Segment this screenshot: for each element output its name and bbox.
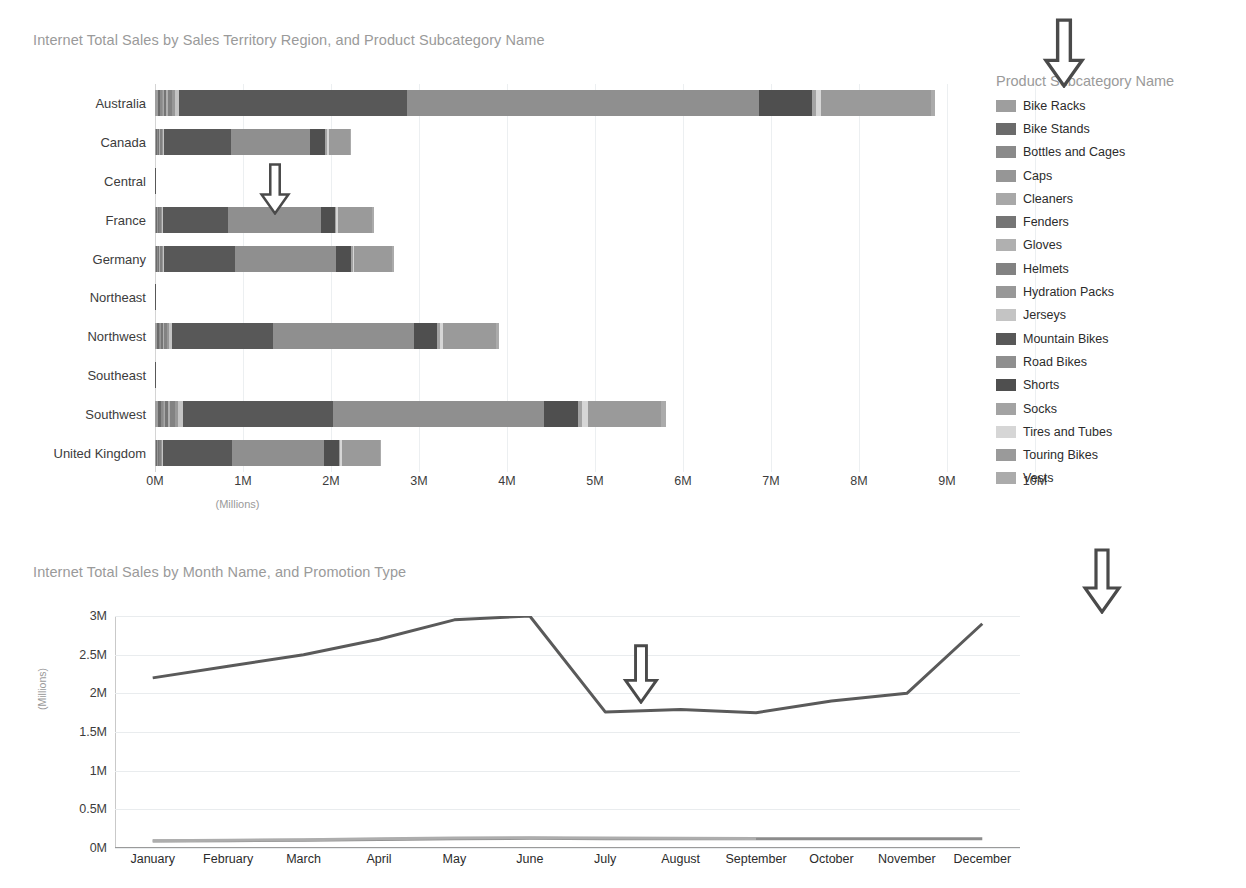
bar-segment[interactable]	[163, 207, 228, 233]
bar-segment[interactable]	[235, 246, 336, 272]
line-x-tick-label: January	[130, 852, 174, 866]
bar-segment[interactable]	[821, 90, 931, 116]
bar-segment[interactable]	[179, 90, 408, 116]
line-x-tick-label: September	[725, 852, 786, 866]
bar-row[interactable]: Australia	[155, 90, 1035, 116]
bar-row[interactable]: Northeast	[155, 284, 1035, 310]
bar-segment[interactable]	[321, 207, 335, 233]
legend-item[interactable]: Gloves	[996, 234, 1246, 257]
bar-segment[interactable]	[354, 246, 392, 272]
bar-segment[interactable]	[661, 401, 666, 427]
line-x-tick-label: December	[953, 852, 1011, 866]
legend-item-label: Bottles and Cages	[1023, 145, 1125, 159]
bar-segment[interactable]	[231, 129, 310, 155]
legend-item[interactable]: Socks	[996, 397, 1246, 420]
bar-chart-legend: Product Subcategory Name Bike RacksBike …	[996, 73, 1246, 490]
bar-category-label: Germany	[93, 251, 146, 266]
legend-item[interactable]: Bike Stands	[996, 117, 1246, 140]
legend-item[interactable]: Bike Racks	[996, 94, 1246, 117]
bar-row[interactable]: United Kingdom	[155, 440, 1035, 466]
bar-segment[interactable]	[183, 401, 333, 427]
legend-item[interactable]: Mountain Bikes	[996, 327, 1246, 350]
bar-segment[interactable]	[414, 323, 437, 349]
bar-segment[interactable]	[544, 401, 578, 427]
bar-row[interactable]: Canada	[155, 129, 1035, 155]
bar-category-label: Northeast	[90, 290, 146, 305]
bar-segment[interactable]	[342, 440, 380, 466]
bar-segment[interactable]	[324, 440, 339, 466]
bar-segment[interactable]	[155, 284, 156, 310]
bar-segment[interactable]	[164, 129, 231, 155]
bar-row[interactable]: Southeast	[155, 362, 1035, 388]
legend-item[interactable]: Caps	[996, 164, 1246, 187]
line-x-tick-label: March	[286, 852, 321, 866]
bar-segment[interactable]	[443, 323, 496, 349]
bar-segment[interactable]	[163, 440, 232, 466]
line-series-path[interactable]	[153, 616, 983, 713]
legend-item[interactable]: Vests	[996, 467, 1246, 490]
bar-segment[interactable]	[273, 323, 414, 349]
bar-segment[interactable]	[392, 246, 394, 272]
legend-item-label: Gloves	[1023, 238, 1062, 252]
bar-segment[interactable]	[380, 440, 381, 466]
bar-category-label: Australia	[95, 96, 146, 111]
bar-segment[interactable]	[407, 90, 759, 116]
legend-swatch-icon	[996, 472, 1016, 484]
legend-swatch-icon	[996, 309, 1016, 321]
bar-segment[interactable]	[372, 207, 373, 233]
bar-x-tick-label: 3M	[410, 474, 427, 488]
line-chart-plot-area: 0M0.5M1M1.5M2M2.5M3MJanuaryFebruaryMarch…	[115, 616, 1020, 848]
line-y-tick-label: 3M	[90, 609, 107, 623]
line-y-tick-label: 0.5M	[79, 802, 107, 816]
legend-item[interactable]: Tires and Tubes	[996, 420, 1246, 443]
legend-item-label: Cleaners	[1023, 192, 1073, 206]
legend-item-label: Hydration Packs	[1023, 285, 1114, 299]
bar-segment[interactable]	[931, 90, 935, 116]
legend-item[interactable]: Cleaners	[996, 187, 1246, 210]
legend-swatch-icon	[996, 193, 1016, 205]
bar-row[interactable]: Northwest	[155, 323, 1035, 349]
bar-category-label: Central	[104, 174, 146, 189]
legend-item[interactable]: Helmets	[996, 257, 1246, 280]
line-x-tick-label: August	[661, 852, 700, 866]
bar-segment[interactable]	[759, 90, 812, 116]
bar-segment[interactable]	[172, 323, 273, 349]
legend-item[interactable]: Hydration Packs	[996, 280, 1246, 303]
legend-item-label: Helmets	[1023, 262, 1069, 276]
bar-row[interactable]: Germany	[155, 246, 1035, 272]
bar-chart-title: Internet Total Sales by Sales Territory …	[33, 32, 545, 48]
bar-segment[interactable]	[155, 362, 156, 388]
bar-segment[interactable]	[338, 207, 372, 233]
legend-item-label: Caps	[1023, 169, 1052, 183]
legend-swatch-icon	[996, 100, 1016, 112]
legend-swatch-icon	[996, 286, 1016, 298]
bar-segment[interactable]	[164, 246, 234, 272]
line-gridline	[115, 848, 1020, 849]
bar-segment[interactable]	[310, 129, 325, 155]
line-x-tick-label: April	[366, 852, 391, 866]
line-chart-panel: Internet Total Sales by Month Name, and …	[0, 520, 1246, 888]
legend-item[interactable]: Bottles and Cages	[996, 141, 1246, 164]
bar-segment[interactable]	[588, 401, 661, 427]
legend-item[interactable]: Road Bikes	[996, 350, 1246, 373]
arrow-bar-central-row	[255, 163, 295, 215]
legend-item[interactable]: Fenders	[996, 210, 1246, 233]
bar-segment[interactable]	[329, 129, 350, 155]
legend-item[interactable]: Jerseys	[996, 304, 1246, 327]
bar-row[interactable]: Southwest	[155, 401, 1035, 427]
legend-item[interactable]: Shorts	[996, 374, 1246, 397]
bar-segment[interactable]	[496, 323, 499, 349]
bar-segment[interactable]	[155, 168, 156, 194]
bar-legend-items: Bike RacksBike StandsBottles and CagesCa…	[996, 94, 1246, 490]
line-x-tick-label: July	[594, 852, 616, 866]
bar-category-label: United Kingdom	[54, 445, 147, 460]
legend-item[interactable]: Touring Bikes	[996, 443, 1246, 466]
bar-x-unit-text: (Millions)	[216, 498, 260, 510]
bar-segment[interactable]	[336, 246, 351, 272]
bar-segment[interactable]	[232, 440, 324, 466]
bar-segment[interactable]	[333, 401, 544, 427]
legend-item-label: Vests	[1023, 471, 1054, 485]
bar-segment[interactable]	[350, 129, 352, 155]
line-x-tick-label: October	[809, 852, 853, 866]
line-x-tick-label: June	[516, 852, 543, 866]
